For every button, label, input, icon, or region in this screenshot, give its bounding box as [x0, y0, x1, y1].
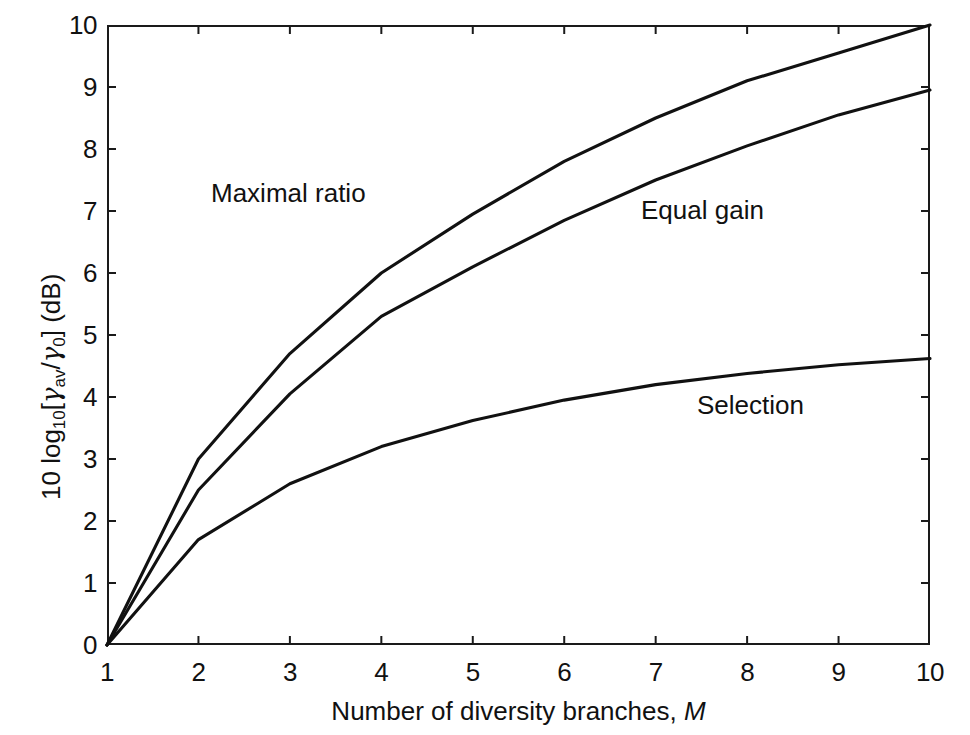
y-tick-0: 0 [37, 632, 97, 658]
x-tick-6: 6 [534, 659, 594, 685]
x-axis-title-text: Number of diversity branches, [331, 696, 684, 726]
y-tick-2: 2 [37, 508, 97, 534]
x-axis-symbol-M: M [684, 696, 706, 726]
x-tick-8: 8 [717, 659, 777, 685]
plot-frame [107, 25, 930, 645]
x-tick-3: 3 [260, 659, 320, 685]
x-tick-7: 7 [626, 659, 686, 685]
y-axis-title: 10 log10[γav/γ0] (dB) [36, 274, 70, 500]
curve-label-maximal-ratio: Maximal ratio [211, 178, 366, 209]
y-axis-sub-av: av [50, 369, 69, 387]
x-tick-10: 10 [900, 659, 960, 685]
y-axis-lead: 10 log [36, 429, 66, 500]
y-axis-slash: / [36, 362, 66, 369]
y-axis-log-base: 10 [50, 410, 69, 429]
x-tick-4: 4 [351, 659, 411, 685]
y-tick-9: 9 [37, 74, 97, 100]
y-tick-8: 8 [37, 136, 97, 162]
curve-label-selection: Selection [697, 390, 804, 421]
x-tick-2: 2 [168, 659, 228, 685]
x-axis-title: Number of diversity branches, M [107, 696, 930, 727]
y-axis-sub-0: 0 [50, 337, 69, 346]
y-axis-gamma-av: γ [36, 387, 66, 403]
x-tick-9: 9 [809, 659, 869, 685]
y-axis-bracket-open: [ [36, 403, 66, 410]
x-tick-1: 1 [77, 659, 137, 685]
y-axis-gamma-0: γ [36, 347, 66, 363]
x-tick-5: 5 [443, 659, 503, 685]
y-axis-bracket-close-units: ] (dB) [36, 274, 66, 338]
y-tick-1: 1 [37, 570, 97, 596]
y-tick-10: 10 [37, 12, 97, 38]
curve-label-equal-gain: Equal gain [641, 195, 764, 226]
diversity-gain-chart: 012345678910 12345678910 Number of diver… [0, 0, 970, 735]
y-tick-7: 7 [37, 198, 97, 224]
